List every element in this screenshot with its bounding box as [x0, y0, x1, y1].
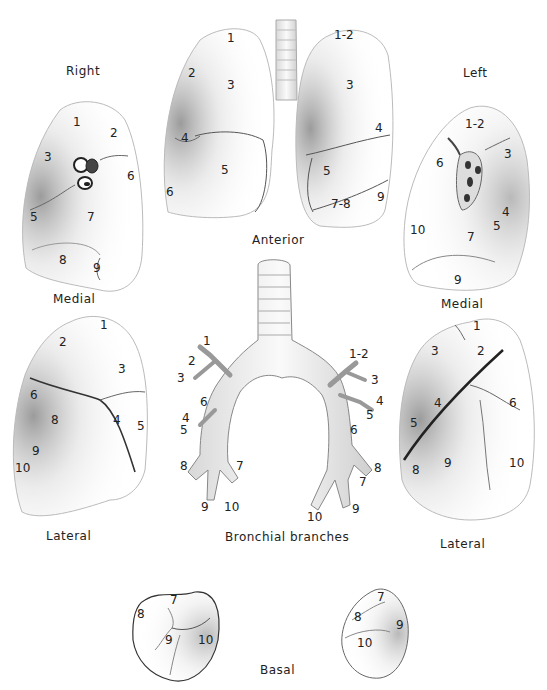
bronchial-right-segment-label: 3	[177, 372, 185, 384]
left-medial-segment-label: 10	[410, 224, 425, 236]
bronchial-left-segment-label: 6	[350, 424, 358, 436]
right-lateral-segment-label: 1	[100, 319, 108, 331]
basal-left-segment-label: 8	[354, 611, 362, 623]
bronchial-left-segment-label: 1-2	[349, 348, 369, 360]
right-lateral-segment-label: 10	[15, 462, 30, 474]
anterior-segment-label: 2	[188, 67, 196, 79]
left-medial-segment-label: 3	[504, 148, 512, 160]
left-medial-segment-label: 1-2	[465, 118, 485, 130]
right-medial-segment-label: 9	[93, 262, 101, 274]
caption-medial-right: Medial	[53, 292, 95, 306]
basal-right-segment-label: 9	[165, 634, 173, 646]
right-lateral-segment-label: 6	[30, 389, 38, 401]
bronchial-left-segment-label: 10	[307, 511, 322, 523]
bronchial-right-segment-label: 10	[224, 501, 239, 513]
anterior-segment-label: 7-8	[331, 198, 351, 210]
basal-left-segment-label: 10	[357, 637, 372, 649]
anterior-segment-label: 5	[323, 165, 331, 177]
left-medial-lung	[404, 106, 529, 290]
left-medial-segment-label: 6	[436, 157, 444, 169]
bronchial-right-segment-label: 6	[200, 396, 208, 408]
left-lateral-segment-label: 1	[473, 320, 481, 332]
bronchial-right-segment-label: 7	[236, 460, 244, 472]
bronchial-left-segment-label: 7	[359, 476, 367, 488]
anterior-segment-label: 3	[346, 79, 354, 91]
left-lateral-segment-label: 10	[509, 457, 524, 469]
left-lateral-segment-label: 8	[412, 464, 420, 476]
bronchial-left-segment-label: 4	[376, 395, 384, 407]
bronchial-right-segment-label: 2	[188, 355, 196, 367]
lung-illustration	[0, 0, 547, 690]
left-lateral-segment-label: 5	[410, 417, 418, 429]
anterior-segment-label: 3	[227, 79, 235, 91]
bronchial-right-segment-label: 9	[201, 501, 209, 513]
right-medial-segment-label: 1	[73, 116, 81, 128]
left-medial-segment-label: 7	[467, 231, 475, 243]
bronchial-right-segment-label: 5	[180, 424, 188, 436]
basal-left	[342, 589, 408, 678]
bronchial-tree	[188, 260, 372, 510]
left-lateral-segment-label: 4	[434, 397, 442, 409]
right-lateral-segment-label: 9	[32, 445, 40, 457]
bronchial-right-segment-label: 1	[203, 335, 211, 347]
left-lateral-segment-label: 3	[431, 345, 439, 357]
right-medial-segment-label: 8	[59, 254, 67, 266]
anterior-segment-label: 5	[221, 164, 229, 176]
anterior-segment-label: 4	[181, 132, 189, 144]
right-medial-lung	[23, 102, 143, 292]
left-medial-segment-label: 5	[493, 220, 501, 232]
anterior-lungs	[164, 20, 393, 227]
right-lateral-segment-label: 2	[59, 336, 67, 348]
bronchial-right-segment-label: 8	[180, 460, 188, 472]
left-lateral-lung	[399, 319, 534, 520]
bronchial-left-segment-label: 8	[374, 462, 382, 474]
left-lateral-segment-label: 9	[444, 457, 452, 469]
anterior-segment-label: 6	[166, 186, 174, 198]
basal-left-segment-label: 9	[396, 619, 404, 631]
bronchial-left-segment-label: 9	[352, 503, 360, 515]
right-medial-segment-label: 2	[110, 127, 118, 139]
caption-left: Left	[463, 66, 488, 80]
bronchial-left-segment-label: 5	[366, 409, 374, 421]
right-medial-segment-label: 7	[87, 211, 95, 223]
anterior-segment-label: 1-2	[334, 29, 354, 41]
left-lateral-segment-label: 2	[477, 345, 485, 357]
caption-lateral-left: Lateral	[440, 537, 485, 551]
right-lateral-segment-label: 8	[51, 414, 59, 426]
right-medial-segment-label: 5	[30, 211, 38, 223]
caption-anterior: Anterior	[252, 233, 304, 247]
anterior-segment-label: 4	[375, 122, 383, 134]
right-medial-segment-label: 3	[44, 151, 52, 163]
caption-basal: Basal	[260, 663, 295, 677]
caption-bronchial-branches: Bronchial branches	[225, 530, 349, 544]
basal-right-segment-label: 10	[198, 634, 213, 646]
right-medial-segment-label: 6	[127, 170, 135, 182]
anterior-segment-label: 9	[377, 191, 385, 203]
bronchial-left-segment-label: 3	[371, 374, 379, 386]
left-medial-segment-label: 9	[454, 274, 462, 286]
basal-right-segment-label: 7	[170, 594, 178, 606]
right-lateral-segment-label: 3	[118, 363, 126, 375]
basal-right-segment-label: 8	[137, 608, 145, 620]
basal-left-segment-label: 7	[377, 591, 385, 603]
caption-medial-left: Medial	[441, 297, 483, 311]
right-lateral-segment-label: 4	[113, 414, 121, 426]
left-lateral-segment-label: 6	[509, 397, 517, 409]
anterior-segment-label: 1	[227, 32, 235, 44]
right-lateral-lung	[13, 316, 147, 515]
right-lateral-segment-label: 5	[137, 420, 145, 432]
left-medial-segment-label: 4	[502, 206, 510, 218]
caption-lateral-right: Lateral	[46, 529, 91, 543]
caption-right: Right	[66, 64, 100, 78]
